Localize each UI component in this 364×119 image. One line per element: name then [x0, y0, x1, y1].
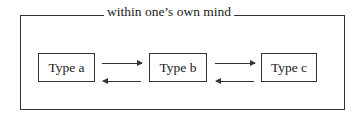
node-type-c: Type c: [261, 53, 317, 82]
node-type-b: Type b: [149, 53, 207, 82]
node-label: Type a: [48, 60, 84, 76]
node-label: Type b: [160, 60, 197, 76]
arrow-a-to-b-icon: [102, 63, 142, 64]
frame-title: within one’s own mind: [104, 4, 234, 20]
node-label: Type c: [271, 60, 307, 76]
node-type-a: Type a: [38, 53, 95, 82]
arrow-c-to-b-icon: [216, 81, 254, 82]
arrow-b-to-c-icon: [215, 63, 255, 64]
arrow-b-to-a-icon: [103, 81, 141, 82]
